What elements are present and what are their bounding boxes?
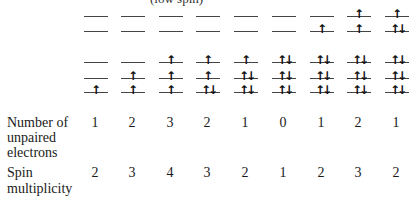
- electron-arrow-icon: ↑↓: [390, 84, 404, 96]
- electron-arrow-icon: ↑: [317, 23, 327, 35]
- unpaired-value: 1: [85, 115, 105, 131]
- electron-arrow-icon: ↑: [241, 54, 251, 66]
- orbital-column: ↑↑↑↓↑↓↑↓: [347, 0, 371, 100]
- electron-arrow-icon: ↑↓: [277, 54, 291, 66]
- electron-arrow-icon: ↑: [128, 84, 138, 96]
- electron-arrow-icon: ↑: [203, 70, 213, 82]
- electron-arrow-icon: ↑↓: [315, 54, 329, 66]
- orbital-column: ↑↑↑↓: [196, 0, 220, 100]
- multiplicity-value: 1: [273, 165, 293, 181]
- electron-arrow-icon: ↑: [203, 54, 213, 66]
- t2g-level: ↑↓: [385, 78, 409, 79]
- electron-arrow-icon: ↑↓: [352, 84, 366, 96]
- t2g-level: ↑↓: [310, 92, 334, 93]
- eg-level: [159, 16, 183, 17]
- t2g-level: ↑: [121, 92, 145, 93]
- t2g-level: ↑↓: [272, 92, 296, 93]
- t2g-level: ↑: [121, 78, 145, 79]
- t2g-level: ↑↓: [347, 78, 371, 79]
- electron-arrow-icon: ↑↓: [390, 23, 404, 35]
- eg-level: [84, 31, 108, 32]
- multiplicity-value: 3: [348, 165, 368, 181]
- orbital-column: ↑↑↓↑↓↑↓↑↓: [385, 0, 409, 100]
- t2g-level: ↑↓: [347, 92, 371, 93]
- multiplicity-label-line2: multiplicity: [7, 181, 72, 196]
- electron-arrow-icon: ↑: [166, 54, 176, 66]
- unpaired-label-line3: electrons: [7, 145, 58, 160]
- eg-level: ↑: [347, 31, 371, 32]
- unpaired-value: 1: [235, 115, 255, 131]
- unpaired-label-line2: unpaired: [7, 130, 56, 145]
- electron-arrow-icon: ↑: [128, 70, 138, 82]
- orbital-column: ↑↑↓↑↓: [234, 0, 258, 100]
- unpaired-value: 0: [273, 115, 293, 131]
- electron-arrow-icon: ↑↓: [352, 54, 366, 66]
- t2g-level: ↑: [234, 62, 258, 63]
- electron-arrow-icon: ↑: [166, 84, 176, 96]
- electron-arrow-icon: ↑: [392, 8, 402, 20]
- t2g-level: ↑↓: [310, 62, 334, 63]
- eg-level: ↑: [385, 16, 409, 17]
- electron-arrow-icon: ↑↓: [277, 84, 291, 96]
- eg-level: ↑↓: [385, 31, 409, 32]
- t2g-level: ↑: [159, 62, 183, 63]
- multiplicity-value: 2: [85, 165, 105, 181]
- eg-level: [272, 31, 296, 32]
- orbital-column: ↑↓↑↓↑↓: [272, 0, 296, 100]
- multiplicity-value: 3: [197, 165, 217, 181]
- t2g-level: ↑↓: [385, 92, 409, 93]
- unpaired-value: 2: [122, 115, 142, 131]
- eg-level: [272, 16, 296, 17]
- t2g-level: ↑↓: [272, 62, 296, 63]
- orbital-column: ↑↑↑: [159, 0, 183, 100]
- multiplicity-label-line1: Spin: [7, 165, 33, 180]
- electron-arrow-icon: ↑↓: [239, 84, 253, 96]
- eg-level: [121, 31, 145, 32]
- t2g-level: ↑↓: [196, 92, 220, 93]
- eg-level: [121, 16, 145, 17]
- eg-level: [234, 31, 258, 32]
- eg-level: [310, 16, 334, 17]
- electron-arrow-icon: ↑: [91, 84, 101, 96]
- eg-level: [196, 31, 220, 32]
- eg-level: [234, 16, 258, 17]
- electron-arrow-icon: ↑↓: [315, 70, 329, 82]
- unpaired-label-line1: Number of: [7, 115, 68, 130]
- t2g-level: ↑↓: [234, 78, 258, 79]
- eg-level: [84, 16, 108, 17]
- orbital-column: ↑↑: [121, 0, 145, 100]
- eg-level: ↑: [347, 16, 371, 17]
- electron-arrow-icon: ↑↓: [239, 70, 253, 82]
- t2g-level: ↑: [84, 92, 108, 93]
- t2g-level: ↑: [196, 78, 220, 79]
- t2g-level: [84, 62, 108, 63]
- t2g-level: ↑: [196, 62, 220, 63]
- t2g-level: ↑↓: [385, 62, 409, 63]
- orbital-column: ↑: [84, 0, 108, 100]
- multiplicity-value: 4: [160, 165, 180, 181]
- electron-arrow-icon: ↑↓: [352, 70, 366, 82]
- electron-arrow-icon: ↑↓: [390, 70, 404, 82]
- t2g-level: ↑↓: [347, 62, 371, 63]
- t2g-level: ↑↓: [272, 78, 296, 79]
- eg-level: [159, 31, 183, 32]
- multiplicity-value: 2: [311, 165, 331, 181]
- multiplicity-value: 2: [386, 165, 406, 181]
- t2g-level: ↑: [159, 92, 183, 93]
- electron-arrow-icon: ↑: [354, 8, 364, 20]
- electron-arrow-icon: ↑: [166, 70, 176, 82]
- unpaired-value: 3: [160, 115, 180, 131]
- t2g-level: ↑↓: [310, 78, 334, 79]
- electron-arrow-icon: ↑↓: [390, 54, 404, 66]
- electron-arrow-icon: ↑↓: [277, 70, 291, 82]
- orbital-column: ↑↑↓↑↓↑↓: [310, 0, 334, 100]
- multiplicity-value: 2: [235, 165, 255, 181]
- electron-arrow-icon: ↑: [354, 23, 364, 35]
- t2g-level: ↑: [159, 78, 183, 79]
- eg-level: ↑: [310, 31, 334, 32]
- unpaired-value: 1: [311, 115, 331, 131]
- electron-arrow-icon: ↑↓: [315, 84, 329, 96]
- t2g-level: ↑↓: [234, 92, 258, 93]
- unpaired-value: 2: [348, 115, 368, 131]
- t2g-level: [84, 78, 108, 79]
